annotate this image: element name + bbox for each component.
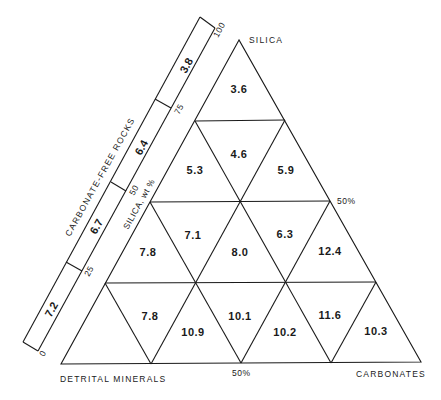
bar-segment-50-75: 6.4: [132, 137, 150, 157]
cell-value: 8.0: [232, 246, 249, 258]
cell-value: 11.6: [319, 309, 342, 321]
vertex-label-carbonates: CARBONATES: [356, 369, 426, 379]
axis-tick-0: 0: [37, 349, 48, 358]
bar-divider-50: [111, 182, 126, 191]
axis-tick-100: 100: [211, 20, 227, 39]
edge-label-right-50: 50%: [337, 196, 356, 206]
axis-tick-75: 75: [172, 102, 186, 116]
bar-cap-0: [23, 342, 38, 351]
ternary-diagram: SILICA DETRITAL MINERALS CARBONATES 50% …: [0, 0, 441, 400]
cell-value: 5.3: [187, 164, 204, 176]
cell-value: 12.4: [318, 245, 342, 257]
vertex-label-silica: SILICA: [249, 35, 283, 45]
cell-value: 6.3: [277, 228, 294, 240]
cell-value: 10.1: [228, 310, 251, 322]
grid-line: [151, 120, 285, 364]
cell-value: 7.1: [185, 229, 202, 241]
cell-value: 7.8: [142, 310, 159, 322]
grid-line: [331, 282, 376, 363]
cell-value: 3.6: [231, 83, 248, 95]
cell-value: 5.9: [278, 164, 295, 176]
vertex-label-detrital-minerals: DETRITAL MINERALS: [60, 374, 166, 384]
cell-value: 10.9: [181, 326, 204, 338]
bar-divider-25: [66, 262, 82, 271]
grid-line-25: [105, 282, 376, 283]
silica-axis-line: [38, 28, 215, 351]
bar-cap-100: [200, 17, 215, 28]
cell-value: 7.8: [140, 246, 157, 258]
grid-line: [195, 121, 331, 363]
grid-line-75: [195, 120, 285, 121]
bar-segment-75-100: 3.8: [177, 56, 195, 75]
grid-line: [105, 283, 151, 364]
cell-value: 10.3: [364, 325, 387, 337]
cell-value: 4.6: [231, 148, 248, 160]
cell-value: 10.2: [273, 326, 296, 338]
edge-label-bottom-50: 50%: [232, 368, 251, 378]
bar-outer-line: [23, 17, 200, 342]
cell-values: 3.6 5.3 4.6 5.9 7.8 7.1 8.0 6.3 12.4 7.8…: [140, 83, 388, 338]
bar-divider-75: [155, 99, 171, 108]
